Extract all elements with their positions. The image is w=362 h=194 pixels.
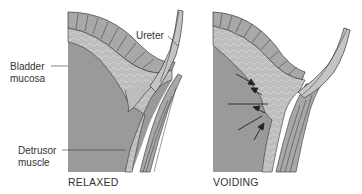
detrusor-label-line1: Detrusor	[18, 145, 56, 156]
bladder-mucosa-label-line1: Bladder	[10, 61, 44, 72]
relaxed-panel	[68, 10, 183, 172]
ureter-right	[298, 28, 350, 98]
voiding-caption: VOIDING	[213, 176, 259, 188]
relaxed-caption: RELAXED	[68, 176, 118, 188]
voiding-panel	[213, 12, 350, 172]
ureter-label: Ureter	[136, 30, 164, 41]
bladder-mucosa-label-line2: mucosa	[10, 73, 45, 84]
bladder-diagram	[0, 0, 362, 194]
detrusor-label-line2: muscle	[18, 157, 50, 168]
